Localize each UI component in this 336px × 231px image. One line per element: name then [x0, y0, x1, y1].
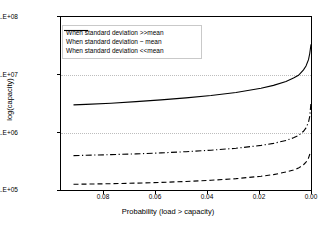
legend: When standard deviation >>mean When stan…: [62, 25, 202, 59]
legend-label-2: When standard deviation <<mean: [66, 46, 164, 55]
legend-label-1: When standard deviation ~ mean: [66, 37, 162, 46]
curve-1: [74, 102, 312, 155]
curve-2: [74, 153, 312, 185]
legend-item-1: When standard deviation ~ mean: [66, 37, 198, 46]
chart-container: 1.E+08 1.E+07 1.E+06 1.E+05 0.08 0.06 0.…: [0, 0, 336, 231]
legend-item-2: When standard deviation <<mean: [66, 46, 198, 55]
legend-swatch-dashed-icon: [63, 26, 89, 35]
